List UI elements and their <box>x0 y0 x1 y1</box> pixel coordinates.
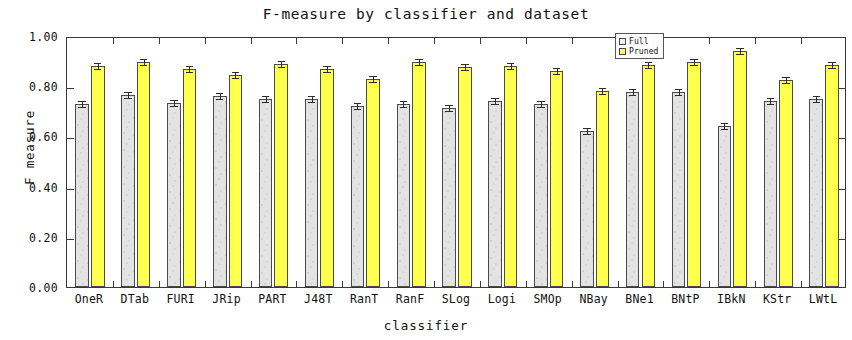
bar-group <box>388 36 434 287</box>
bar-full-part <box>259 99 273 287</box>
bar-group <box>480 36 526 287</box>
bar-group <box>296 36 342 287</box>
x-tick-mark <box>755 38 756 44</box>
y-tick-mark <box>67 88 74 89</box>
error-bar-cap <box>369 76 376 77</box>
bar-pruned-jrip <box>229 75 243 287</box>
bar-pruned-j48t <box>320 69 334 287</box>
error-bar-cap <box>583 134 590 135</box>
chart-title: F-measure by classifier and dataset <box>0 6 852 22</box>
error-bar-cap <box>736 54 743 55</box>
error-bar-cap <box>78 107 85 108</box>
x-category-label-lwtl: LWtL <box>800 292 846 306</box>
x-tick-mark <box>159 38 160 44</box>
x-tick-mark <box>709 38 710 44</box>
bar-full-bntp <box>672 92 686 287</box>
error-bar-cap <box>400 101 407 102</box>
x-category-label-kstr: KStr <box>754 292 800 306</box>
bar-group <box>113 36 159 287</box>
x-category-label-smop: SMOp <box>525 292 571 306</box>
bar-pruned-nbay <box>596 91 610 287</box>
bar-pruned-ranf <box>412 62 426 287</box>
error-bar-cap <box>813 102 820 103</box>
bar-pruned-oner <box>91 66 105 287</box>
error-bar-cap <box>186 72 193 73</box>
bar-full-slog <box>442 108 456 287</box>
x-category-label-dtab: DTab <box>112 292 158 306</box>
bar-group <box>67 36 113 287</box>
y-tick-label: 0.80 <box>2 80 58 94</box>
error-bar-cap <box>308 102 315 103</box>
x-category-label-logi: Logi <box>479 292 525 306</box>
bar-full-rant <box>351 106 365 287</box>
error-bar-cap <box>369 82 376 83</box>
bar-full-ibkn <box>718 126 732 287</box>
bar-full-dtab <box>121 95 135 287</box>
bar-full-nbay <box>580 131 594 287</box>
y-tick-label: 0.20 <box>2 231 58 245</box>
x-category-label-oner: OneR <box>66 292 112 306</box>
bar-pruned-rant <box>366 79 380 287</box>
x-tick-mark <box>388 38 389 44</box>
x-tick-mark <box>205 38 206 44</box>
x-tick-mark <box>572 38 573 44</box>
bar-pruned-logi <box>504 66 518 287</box>
error-bar-cap <box>94 63 101 64</box>
error-bar-cap <box>828 62 835 63</box>
x-tick-mark <box>801 38 802 44</box>
x-tick-mark <box>801 281 802 287</box>
error-bar-cap <box>553 68 560 69</box>
chart-container: F-measure by classifier and dataset F me… <box>0 0 852 340</box>
legend-label-pruned: Pruned <box>629 47 659 56</box>
bar-group <box>663 36 709 287</box>
x-category-label-bntp: BNtP <box>662 292 708 306</box>
y-tick-label: 1.00 <box>2 30 58 44</box>
x-category-label-ranf: RanF <box>387 292 433 306</box>
x-tick-mark <box>526 38 527 44</box>
error-bar-cap <box>736 48 743 49</box>
error-bar-cap <box>124 92 131 93</box>
y-tick-mark <box>838 138 845 139</box>
error-bar-cap <box>599 88 606 89</box>
legend-swatch-pruned-icon <box>619 48 626 55</box>
bar-group <box>205 36 251 287</box>
x-tick-mark <box>709 281 710 287</box>
error-bar-cap <box>262 102 269 103</box>
bar-pruned-bntp <box>687 62 701 287</box>
error-bar-cap <box>782 83 789 84</box>
error-bar-cap <box>491 98 498 99</box>
bar-group <box>618 36 664 287</box>
error-bar-cap <box>537 101 544 102</box>
error-bar-cap <box>232 72 239 73</box>
x-tick-mark <box>296 38 297 44</box>
x-tick-mark <box>113 38 114 44</box>
legend-swatch-full-icon <box>619 38 626 45</box>
plot-area <box>66 37 846 288</box>
bar-group <box>526 36 572 287</box>
x-category-label-nbay: NBay <box>571 292 617 306</box>
error-bar-cap <box>140 59 147 60</box>
bar-group <box>159 36 205 287</box>
error-bar-cap <box>813 96 820 97</box>
y-tick-mark <box>838 88 845 89</box>
x-category-label-slog: SLog <box>433 292 479 306</box>
x-category-label-part: PART <box>250 292 296 306</box>
error-bar-cap <box>170 100 177 101</box>
error-bar-cap <box>721 123 728 124</box>
x-tick-mark <box>205 281 206 287</box>
x-tick-mark <box>755 281 756 287</box>
x-category-label-furi: FURI <box>158 292 204 306</box>
error-bar-cap <box>278 67 285 68</box>
error-bar-cap <box>323 72 330 73</box>
error-bar-cap <box>645 68 652 69</box>
error-bar-cap <box>461 70 468 71</box>
error-bar-cap <box>507 63 514 64</box>
bar-pruned-ibkn <box>733 51 747 287</box>
y-tick-label: 0.40 <box>2 181 58 195</box>
x-tick-mark <box>572 281 573 287</box>
error-bar-cap <box>216 99 223 100</box>
bar-full-bne1 <box>626 92 640 287</box>
y-tick-mark <box>838 239 845 240</box>
error-bar-cap <box>507 69 514 70</box>
error-bar-cap <box>461 64 468 65</box>
